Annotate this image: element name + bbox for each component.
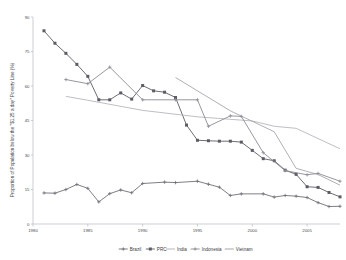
data-point <box>196 139 199 142</box>
data-point <box>218 140 221 143</box>
data-point <box>75 63 78 66</box>
legend-label: PRC <box>157 247 167 252</box>
legend-label: Indonesia <box>202 247 222 252</box>
x-tick-label: 1990 <box>138 228 148 233</box>
data-point <box>262 157 265 160</box>
data-point <box>108 98 111 101</box>
data-point <box>306 185 309 188</box>
legend-label: Vietnam <box>236 247 253 252</box>
data-point <box>229 140 232 143</box>
legend-label: Brazil <box>130 247 142 252</box>
chart-canvas: 0153045607590 198019851990199520002005 P… <box>0 0 346 260</box>
legend-marker-square-icon <box>149 248 152 251</box>
data-point <box>64 52 67 55</box>
data-point <box>119 91 122 94</box>
data-point <box>97 98 100 101</box>
y-tick-label: 75 <box>25 49 30 54</box>
data-point <box>130 98 133 101</box>
y-tick-label: 15 <box>25 187 30 192</box>
data-point <box>207 139 210 142</box>
x-tick-label: 2000 <box>248 228 258 233</box>
data-point <box>42 29 45 32</box>
data-point <box>141 84 144 87</box>
data-point <box>86 75 89 78</box>
legend-label: India <box>177 247 187 252</box>
chart-background <box>0 0 346 260</box>
data-point <box>339 195 342 198</box>
x-tick-label: 1995 <box>193 228 203 233</box>
data-point <box>152 89 155 92</box>
y-tick-label: 45 <box>25 118 30 123</box>
data-point <box>251 149 254 152</box>
y-axis-title: Proportion of Population below the "$1.2… <box>10 63 15 197</box>
x-tick-label: 1985 <box>83 228 93 233</box>
data-point <box>317 186 320 189</box>
y-tick-label: 60 <box>25 84 30 89</box>
data-point <box>240 141 243 144</box>
x-tick-label: 2005 <box>302 228 312 233</box>
data-point <box>185 124 188 127</box>
data-point <box>53 42 56 45</box>
y-tick-label: 90 <box>25 15 30 20</box>
poverty-line-chart: 0153045607590 198019851990199520002005 P… <box>0 0 346 260</box>
x-tick-label: 1980 <box>28 228 38 233</box>
y-tick-label: 30 <box>25 153 30 158</box>
data-point <box>328 191 331 194</box>
data-point <box>163 91 166 94</box>
